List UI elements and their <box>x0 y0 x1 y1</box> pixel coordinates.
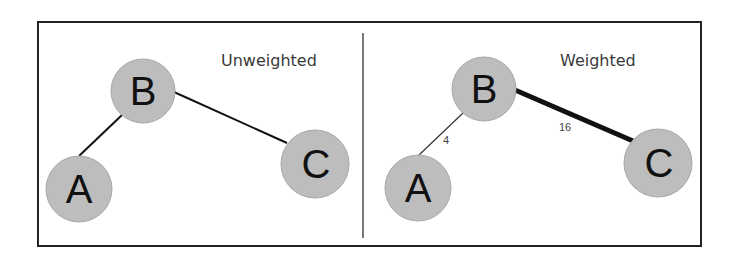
graph-comparison-figure: Unweighted A B C Weighted <box>0 0 729 256</box>
panel-title-unweighted: Unweighted <box>221 51 317 70</box>
node-c: C <box>281 130 349 198</box>
node-a-label: A <box>66 167 93 211</box>
diagram-canvas: Unweighted A B C Weighted <box>0 0 729 256</box>
node-c-label: C <box>645 141 674 185</box>
node-a-weighted: A <box>385 155 451 221</box>
edge-weight-a-b: 4 <box>443 134 449 146</box>
node-b-weighted: B <box>452 57 516 121</box>
node-b: B <box>111 59 175 123</box>
node-c-weighted: C <box>624 129 692 197</box>
node-a: A <box>46 156 112 222</box>
edge-weight-b-c: 16 <box>559 121 571 133</box>
node-a-label: A <box>405 166 432 210</box>
node-b-label: B <box>471 67 498 111</box>
node-b-label: B <box>130 69 157 113</box>
node-c-label: C <box>302 142 331 186</box>
panel-title-weighted: Weighted <box>560 51 636 70</box>
